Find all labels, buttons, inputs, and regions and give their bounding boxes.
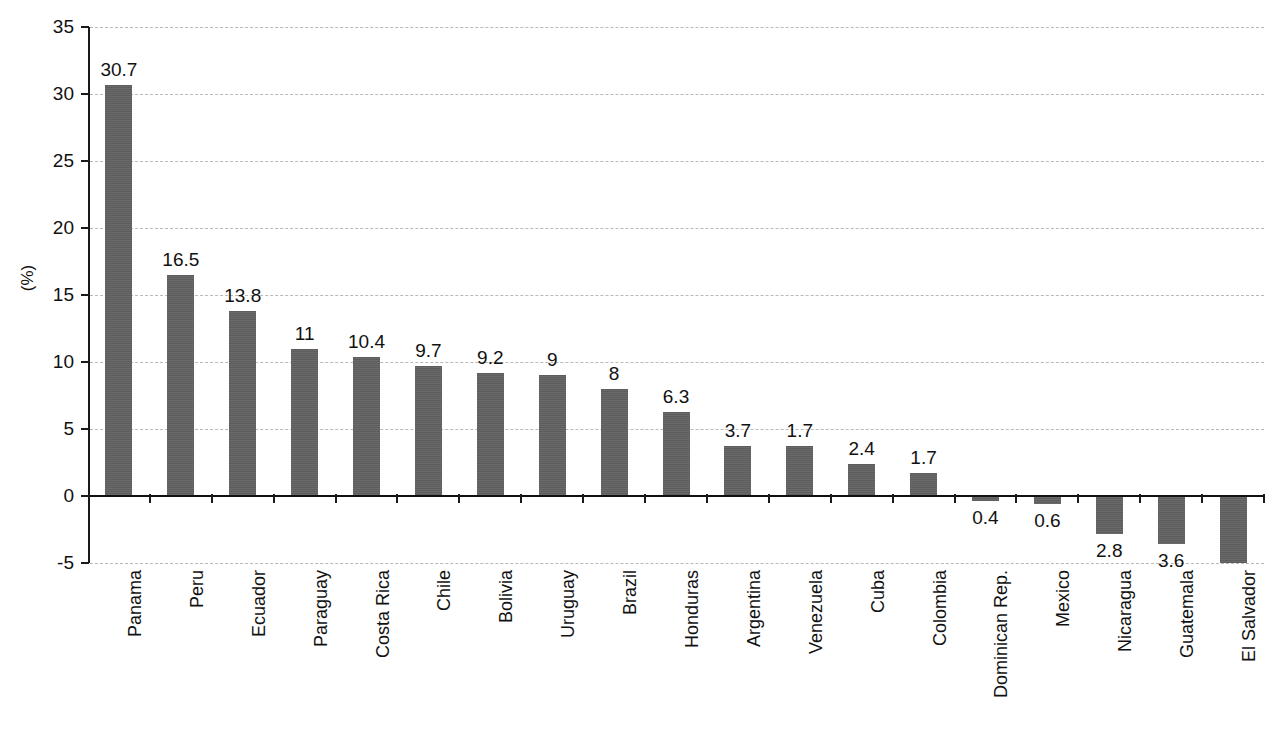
x-axis-label: El Salvador: [1240, 570, 1258, 662]
x-axis-label: Panama: [126, 570, 144, 637]
x-tick-mark: [1015, 494, 1017, 503]
y-tick-label: 5: [28, 419, 74, 438]
bar-value-label: 30.7: [74, 60, 164, 79]
y-tick-label: 25: [28, 151, 74, 170]
bar: [601, 389, 628, 496]
x-axis-label: Guatemala: [1178, 570, 1196, 658]
bar-value-label: 1.7: [879, 448, 969, 467]
bar: [539, 375, 566, 496]
x-axis-label: Nicaragua: [1116, 570, 1134, 652]
bar: [415, 366, 442, 496]
x-axis-label: Chile: [435, 570, 453, 611]
x-tick-mark: [644, 494, 646, 503]
x-axis-label: Uruguay: [559, 570, 577, 638]
bar: [1034, 496, 1061, 504]
x-axis-label: Brazil: [621, 570, 639, 615]
x-tick-mark: [335, 494, 337, 503]
bar: [1220, 496, 1247, 563]
x-tick-mark: [520, 494, 522, 503]
y-tick-label: 35: [28, 17, 74, 36]
bar: [1158, 496, 1185, 544]
x-tick-mark: [706, 494, 708, 503]
x-tick-mark: [768, 494, 770, 503]
bar: [786, 446, 813, 496]
x-axis-label: Honduras: [683, 570, 701, 648]
bar: [910, 473, 937, 496]
x-axis-label: Costa Rica: [374, 570, 392, 658]
bar-value-label: 8: [569, 364, 659, 383]
x-axis-label: Ecuador: [250, 570, 268, 637]
zero-line: [88, 495, 1264, 497]
x-tick-mark: [1077, 494, 1079, 503]
y-tick-label: 10: [28, 352, 74, 371]
x-axis-label: Paraguay: [312, 570, 330, 647]
y-tick-label: -5: [28, 553, 74, 572]
x-tick-mark: [458, 494, 460, 503]
bar-value-label: 13.8: [198, 286, 288, 305]
bar: [229, 311, 256, 496]
x-axis-label: Venezuela: [807, 570, 825, 654]
bar: [724, 446, 751, 496]
bar: [353, 357, 380, 496]
y-tick-label: 20: [28, 218, 74, 237]
x-axis-label: Colombia: [931, 570, 949, 646]
x-tick-mark: [582, 494, 584, 503]
x-axis-label: Cuba: [869, 570, 887, 613]
y-tick-label: 0: [28, 486, 74, 505]
x-tick-mark: [149, 494, 151, 503]
x-tick-mark: [211, 494, 213, 503]
x-axis-label: Dominican Rep.: [992, 570, 1010, 698]
x-axis-label: Argentina: [745, 570, 763, 647]
bar-value-label: 6.3: [631, 387, 721, 406]
y-tick-label: 15: [28, 285, 74, 304]
bar: [291, 349, 318, 496]
bar-value-label: 16.5: [136, 250, 226, 269]
x-tick-mark: [954, 494, 956, 503]
x-axis-label: Peru: [188, 570, 206, 608]
bar: [1096, 496, 1123, 534]
bar: [848, 464, 875, 496]
x-tick-mark: [1263, 494, 1265, 503]
bar: [477, 373, 504, 496]
x-tick-mark: [830, 494, 832, 503]
bar-chart: (%) -505101520253035 PanamaPeruEcuadorPa…: [0, 0, 1280, 740]
x-tick-mark: [892, 494, 894, 503]
x-tick-mark: [273, 494, 275, 503]
x-axis-label: Mexico: [1054, 570, 1072, 627]
x-tick-mark: [396, 494, 398, 503]
bar: [663, 412, 690, 496]
bar: [105, 85, 132, 496]
x-tick-mark: [88, 494, 90, 503]
bar-value-label: 1.7: [755, 421, 845, 440]
gridline--5: [90, 563, 1264, 564]
bar-value-label: 3.6: [1126, 551, 1216, 570]
bar: [167, 275, 194, 496]
bar-value-label: 0.6: [1002, 511, 1092, 530]
x-tick-mark: [1139, 494, 1141, 503]
y-tick-label: 30: [28, 84, 74, 103]
x-axis-label: Bolivia: [497, 570, 515, 623]
x-tick-mark: [1201, 494, 1203, 503]
